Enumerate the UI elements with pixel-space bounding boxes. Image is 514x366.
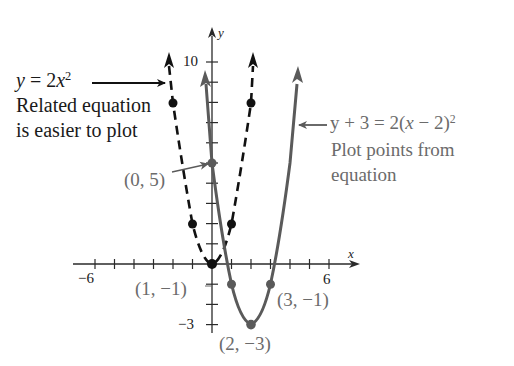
graph-canvas (0, 0, 514, 366)
point-label-3-neg1: (3, −1) (277, 290, 329, 309)
solid-curve-right-arrow-icon (292, 66, 303, 83)
left-annotation-line2: is easier to plot (16, 120, 138, 140)
point-0-0 (207, 259, 217, 269)
point-1-neg1 (227, 280, 236, 289)
y-axis-label: y (218, 26, 224, 39)
right-annotation-line2: equation (331, 165, 396, 184)
tick-label-x-6: 6 (323, 272, 331, 287)
equation-y: y (16, 69, 25, 91)
point-2-8 (247, 99, 256, 108)
point-2-neg3 (246, 320, 256, 330)
point-3-neg1 (266, 280, 275, 289)
dashed-curve-left-arrow-icon (164, 52, 174, 68)
tick-label-y-neg3: −3 (178, 317, 194, 332)
equation-coef: 2 (46, 69, 56, 91)
point-neg2-8 (169, 99, 178, 108)
x-axis-label: x (348, 247, 354, 260)
point-label-2-neg3: (2, −3) (219, 334, 271, 353)
tick-label-y-10: 10 (183, 54, 198, 69)
equation-part2: − 2) (414, 112, 450, 133)
left-annotation-line1: Related equation (16, 95, 151, 115)
point-0-5 (208, 159, 217, 168)
equation-x: x (405, 112, 413, 133)
point-neg1-2 (188, 220, 197, 229)
equation-exponent: 2 (65, 69, 71, 83)
dashed-curve-right-arrow-icon (248, 52, 258, 68)
left-annotation-equation: y = 2x2 (16, 70, 71, 90)
tick-label-x-neg6: −6 (78, 271, 94, 286)
equation-exponent: 2 (450, 113, 456, 126)
point-0-5-label-arrow (172, 164, 208, 172)
point-label-0-5: (0, 5) (124, 170, 165, 189)
point-1-2 (227, 220, 236, 229)
point-label-1-neg1: (1, −1) (135, 279, 187, 298)
right-annotation-line1: Plot points from (331, 140, 455, 159)
right-annotation-equation: y + 3 = 2(x − 2)2 (330, 113, 456, 132)
equation-x: x (56, 69, 65, 91)
equation-equals: = (25, 69, 46, 91)
equation-part1: y + 3 = 2( (330, 112, 405, 133)
y-axis (206, 27, 218, 333)
